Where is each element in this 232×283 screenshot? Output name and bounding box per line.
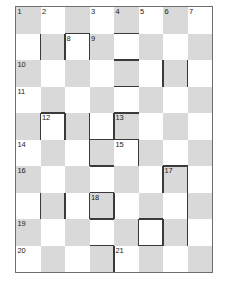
crossword-cell[interactable] <box>163 140 188 167</box>
crossword-cell[interactable] <box>114 87 139 114</box>
cell-number: 21 <box>116 246 124 255</box>
crossword-cell[interactable]: 15 <box>114 140 139 167</box>
crossword-cell[interactable] <box>114 166 139 193</box>
crossword-cell[interactable]: 16 <box>16 166 41 193</box>
crossword-cell[interactable] <box>114 219 139 246</box>
crossword-cell[interactable] <box>16 193 41 220</box>
crossword-cell[interactable] <box>41 193 66 220</box>
crossword-cell[interactable] <box>90 219 115 246</box>
crossword-cell[interactable] <box>16 34 41 61</box>
crossword-cell[interactable]: 6 <box>163 7 188 34</box>
crossword-cell[interactable] <box>65 60 90 87</box>
crossword-cell[interactable] <box>139 246 164 273</box>
crossword-cell[interactable]: 18 <box>90 193 115 220</box>
word-separator-vertical <box>40 113 42 140</box>
crossword-cell[interactable] <box>41 140 66 167</box>
crossword-cell[interactable] <box>90 87 115 114</box>
crossword-cell[interactable] <box>41 219 66 246</box>
crossword-cell[interactable] <box>114 60 139 87</box>
crossword-cell[interactable] <box>65 246 90 273</box>
crossword-cell[interactable] <box>139 60 164 87</box>
crossword-cell[interactable] <box>65 166 90 193</box>
crossword-cell[interactable] <box>163 113 188 140</box>
crossword-cell[interactable] <box>163 34 188 61</box>
crossword-cell[interactable]: 2 <box>41 7 66 34</box>
crossword-grid[interactable]: 123456789101112131415161718192021 <box>16 7 212 272</box>
cell-number: 20 <box>18 246 26 255</box>
crossword-cell[interactable] <box>139 193 164 220</box>
crossword-cell[interactable] <box>41 60 66 87</box>
word-separator-horizontal <box>163 165 188 167</box>
crossword-cell[interactable] <box>65 219 90 246</box>
crossword-cell[interactable] <box>90 166 115 193</box>
crossword-cell[interactable] <box>188 34 213 61</box>
crossword-cell[interactable] <box>188 193 213 220</box>
word-separator-vertical <box>40 193 42 220</box>
crossword-cell[interactable] <box>139 34 164 61</box>
cell-number: 2 <box>42 7 46 16</box>
word-separator-vertical <box>64 193 66 220</box>
cell-number: 4 <box>116 7 120 16</box>
crossword-cell[interactable] <box>188 140 213 167</box>
crossword-cell[interactable] <box>114 34 139 61</box>
crossword-cell[interactable] <box>65 87 90 114</box>
crossword-cell[interactable] <box>90 140 115 167</box>
crossword-cell[interactable] <box>41 246 66 273</box>
crossword-cell[interactable] <box>90 246 115 273</box>
crossword-cell[interactable] <box>163 246 188 273</box>
word-separator-horizontal <box>114 33 139 35</box>
crossword-cell[interactable]: 10 <box>16 60 41 87</box>
crossword-cell[interactable]: 12 <box>41 113 66 140</box>
crossword-cell[interactable] <box>41 166 66 193</box>
crossword-cell[interactable] <box>188 60 213 87</box>
crossword-cell[interactable] <box>139 140 164 167</box>
crossword-cell[interactable] <box>90 113 115 140</box>
crossword-cell[interactable]: 13 <box>114 113 139 140</box>
crossword-cell[interactable] <box>163 219 188 246</box>
crossword-cell[interactable]: 9 <box>90 34 115 61</box>
crossword-cell[interactable] <box>163 87 188 114</box>
crossword-cell[interactable]: 20 <box>16 246 41 273</box>
crossword-cell[interactable]: 11 <box>16 87 41 114</box>
crossword-grid-border: 123456789101112131415161718192021 <box>15 6 213 273</box>
crossword-cell[interactable] <box>163 193 188 220</box>
crossword-cell[interactable] <box>41 87 66 114</box>
word-separator-horizontal <box>41 112 66 114</box>
crossword-cell[interactable] <box>16 113 41 140</box>
crossword-cell[interactable] <box>65 140 90 167</box>
crossword-cell[interactable]: 5 <box>139 7 164 34</box>
crossword-cell[interactable] <box>188 246 213 273</box>
crossword-cell[interactable] <box>90 60 115 87</box>
word-separator-vertical <box>138 219 140 246</box>
crossword-cell[interactable] <box>65 7 90 34</box>
crossword-cell[interactable] <box>114 193 139 220</box>
crossword-cell[interactable]: 4 <box>114 7 139 34</box>
word-separator-vertical <box>89 193 91 220</box>
crossword-cell[interactable] <box>163 60 188 87</box>
crossword-cell[interactable] <box>41 34 66 61</box>
crossword-cell[interactable] <box>139 166 164 193</box>
crossword-cell[interactable] <box>139 219 164 246</box>
crossword-cell[interactable]: 7 <box>188 7 213 34</box>
crossword-cell[interactable]: 3 <box>90 7 115 34</box>
crossword-cell[interactable] <box>188 113 213 140</box>
word-separator-vertical <box>187 193 189 220</box>
crossword-cell[interactable] <box>188 87 213 114</box>
word-separator-vertical <box>162 166 164 193</box>
crossword-cell[interactable] <box>139 113 164 140</box>
word-separator-horizontal <box>114 59 139 61</box>
crossword-cell[interactable] <box>65 193 90 220</box>
crossword-cell[interactable] <box>188 219 213 246</box>
crossword-cell[interactable]: 19 <box>16 219 41 246</box>
cell-number: 15 <box>116 140 124 149</box>
crossword-cell[interactable] <box>139 87 164 114</box>
crossword-cell[interactable] <box>188 166 213 193</box>
crossword-cell[interactable]: 17 <box>163 166 188 193</box>
crossword-cell[interactable]: 21 <box>114 246 139 273</box>
crossword-cell[interactable]: 8 <box>65 34 90 61</box>
crossword-cell[interactable] <box>65 113 90 140</box>
cell-number: 7 <box>189 7 193 16</box>
word-separator-vertical <box>162 219 164 246</box>
crossword-cell[interactable]: 1 <box>16 7 41 34</box>
crossword-cell[interactable]: 14 <box>16 140 41 167</box>
